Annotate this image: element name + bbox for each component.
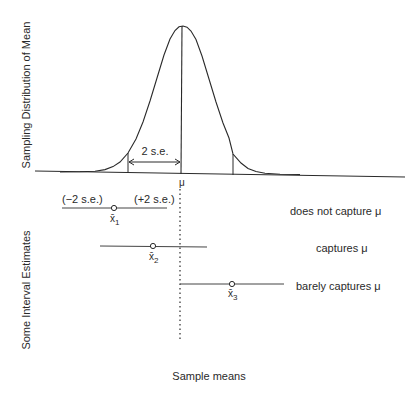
xbar-3-label: x̄3 bbox=[228, 288, 238, 302]
xbar-1-label: x̄1 bbox=[110, 213, 120, 227]
y-axis-label-sampling-distribution: Sampling Distribution of Mean bbox=[20, 22, 32, 169]
mu-label: μ bbox=[179, 177, 185, 188]
interval-2-description: captures μ bbox=[316, 242, 368, 254]
two-se-arrow bbox=[129, 159, 180, 165]
interval-3-description: barely captures μ bbox=[296, 280, 381, 292]
mean-line bbox=[181, 26, 182, 174]
xbar-2-label: x̄2 bbox=[149, 251, 159, 265]
y-axis-label-interval-estimates: Some Interval Estimates bbox=[20, 230, 32, 350]
interval-estimate-3: x̄3 bbox=[180, 281, 284, 302]
confidence-interval-diagram: Sampling Distribution of Mean Some Inter… bbox=[0, 0, 418, 393]
two-se-label: 2 s.e. bbox=[142, 145, 169, 157]
sample-mean-point-3 bbox=[229, 281, 234, 286]
x-axis-label: Sample means bbox=[172, 370, 246, 382]
sample-mean-point-2 bbox=[150, 243, 155, 248]
interval-estimate-2: x̄2 bbox=[100, 243, 207, 265]
plus-2se-label: (+2 s.e.) bbox=[134, 193, 175, 205]
sample-mean-point-1 bbox=[111, 205, 116, 210]
interval-estimate-1: (−2 s.e.) (+2 s.e.) x̄1 bbox=[62, 193, 175, 227]
sampling-distribution-curve bbox=[60, 26, 300, 175]
minus-2se-label: (−2 s.e.) bbox=[62, 193, 103, 205]
interval-1-description: does not capture μ bbox=[290, 205, 381, 217]
